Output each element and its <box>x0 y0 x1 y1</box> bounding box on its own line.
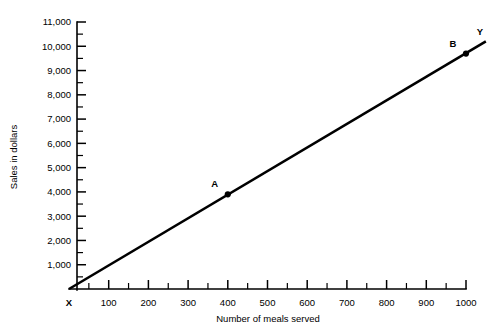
y-tick-label: 2,000 <box>47 235 71 246</box>
data-point-marker <box>463 50 469 56</box>
y-tick-label: 8,000 <box>47 89 71 100</box>
data-point-label: B <box>450 38 457 49</box>
y-tick-label: 4,000 <box>47 186 71 197</box>
y-axis-group: 1,0002,0003,0004,0005,0006,0007,0008,000… <box>42 16 86 290</box>
x-axis-tick-labels: 1002003004005006007008009001000 <box>101 297 477 308</box>
x-tick-label: 200 <box>140 297 156 308</box>
y-tick-label: 3,000 <box>47 211 71 222</box>
x-tick-label: 500 <box>260 297 276 308</box>
x-axis-group: 1002003004005006007008009001000 <box>69 280 477 308</box>
x-tick-label: 900 <box>418 297 434 308</box>
sales-line-chart: 1,0002,0003,0004,0005,0006,0007,0008,000… <box>0 0 495 334</box>
x-tick-label: 1000 <box>455 297 476 308</box>
data-point-annotations: AB <box>211 38 469 198</box>
sales-trend-line <box>69 41 486 289</box>
x-tick-label: 800 <box>379 297 395 308</box>
x-tick-label: 300 <box>180 297 196 308</box>
y-tick-label: 9,000 <box>47 65 71 76</box>
x-tick-label: 700 <box>339 297 355 308</box>
line-end-label-y: Y <box>477 26 484 37</box>
y-axis-title: Sales in dollars <box>8 125 19 190</box>
y-axis-tick-labels: 1,0002,0003,0004,0005,0006,0007,0008,000… <box>42 16 71 270</box>
x-axis-title: Number of meals served <box>216 313 319 324</box>
data-point-label: A <box>211 178 218 189</box>
x-axis-ticks <box>89 280 466 289</box>
chart-svg: 1,0002,0003,0004,0005,0006,0007,0008,000… <box>0 0 495 334</box>
x-tick-label: 400 <box>220 297 236 308</box>
data-point-marker <box>225 191 231 197</box>
y-axis-ticks <box>77 22 86 277</box>
y-tick-label: 11,000 <box>43 16 71 27</box>
y-tick-label: 10,000 <box>42 41 71 52</box>
y-tick-label: 6,000 <box>47 138 71 149</box>
x-tick-label: 100 <box>101 297 117 308</box>
origin-label-x: X <box>66 297 73 308</box>
x-tick-label: 600 <box>299 297 315 308</box>
y-tick-label: 5,000 <box>47 162 71 173</box>
y-tick-label: 1,000 <box>47 259 71 270</box>
series-group <box>69 41 486 289</box>
y-tick-label: 7,000 <box>47 113 71 124</box>
